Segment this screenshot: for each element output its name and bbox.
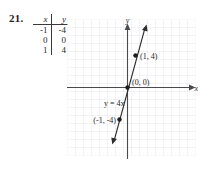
table-body: -1 -4 0 0 1 4 <box>33 25 69 56</box>
column-header-x: x <box>33 14 51 25</box>
table-row: 1 4 <box>33 45 69 55</box>
table-of-values: x y -1 -4 0 0 1 4 <box>33 14 69 55</box>
point-marker-0-0 <box>125 85 129 89</box>
problem-number: 21. <box>9 12 23 24</box>
table-header-row: x y <box>33 14 69 25</box>
point-marker-1-4 <box>133 53 137 57</box>
point-label-neg1-neg4: (-1, -4) <box>93 116 116 125</box>
cell-x: 0 <box>33 35 51 45</box>
point-label-0-0: (0, 0) <box>132 78 150 87</box>
y-axis-label: y <box>125 19 130 25</box>
cell-x: 1 <box>33 45 51 55</box>
point-marker-neg1-neg4 <box>117 117 121 121</box>
point-label-1-4: (1, 4) <box>140 52 158 61</box>
exercise-item: 21. x y -1 -4 0 0 1 4 <box>0 0 213 169</box>
cell-x: -1 <box>33 25 51 36</box>
x-axis-label: x <box>193 84 198 93</box>
equation-label: y = 4x <box>104 99 125 108</box>
coordinate-graph: x y (1, 4) (0, 0) (-1, -4) y = 4x <box>67 19 198 159</box>
table-head: x y <box>33 14 69 25</box>
value-table: x y -1 -4 0 0 1 4 <box>33 14 69 55</box>
table-row: -1 -4 <box>33 25 69 36</box>
table-row: 0 0 <box>33 35 69 45</box>
graph-svg: x y (1, 4) (0, 0) (-1, -4) y = 4x <box>67 19 198 159</box>
